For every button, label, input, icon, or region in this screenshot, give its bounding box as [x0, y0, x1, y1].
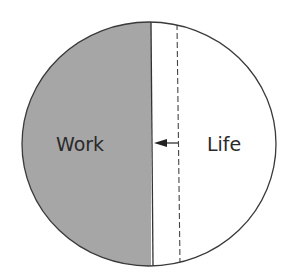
work-life-diagram: Work Life — [0, 0, 294, 276]
life-label: Life — [207, 133, 241, 155]
work-label: Work — [56, 133, 104, 155]
